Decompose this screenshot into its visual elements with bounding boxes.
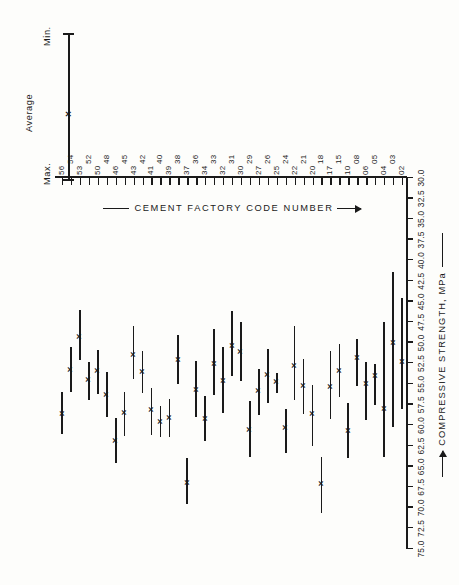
category-axis-title-text: CEMENT FACTORY CODE NUMBER [135, 203, 334, 213]
category-axis-tick-label: 20 [308, 166, 317, 175]
average-marker [390, 339, 397, 346]
average-marker [157, 418, 164, 425]
category-axis-tick-label: 45 [120, 155, 129, 164]
average-marker [184, 479, 191, 486]
average-marker [264, 371, 271, 378]
value-axis-tick [406, 342, 413, 343]
average-marker [229, 342, 236, 349]
average-marker [237, 348, 244, 355]
average-marker [318, 480, 325, 487]
value-axis-tick [406, 321, 413, 322]
category-axis-tick-label: 27 [254, 166, 263, 175]
range-bar [356, 339, 358, 386]
average-marker [381, 405, 388, 412]
category-axis-tick-label: 29 [245, 155, 254, 164]
average-marker [67, 366, 74, 373]
range-bar [401, 298, 403, 408]
category-axis-tick-label: 39 [164, 166, 173, 175]
average-marker [59, 410, 66, 417]
range-bar [365, 362, 367, 421]
average-marker [273, 378, 280, 385]
category-axis-tick-label: 42 [138, 155, 147, 164]
category-axis-tick-label: 50 [93, 166, 102, 175]
category-axis-tick-label: 17 [325, 166, 334, 175]
average-marker [94, 367, 101, 374]
average-marker [246, 426, 253, 433]
range-bar [383, 322, 385, 456]
average-marker [291, 362, 298, 369]
value-axis-rule [442, 233, 443, 267]
range-bar [392, 272, 394, 427]
average-marker [372, 372, 379, 379]
category-axis-tick-label: 48 [102, 155, 111, 164]
average-marker [399, 358, 406, 365]
average-marker [354, 354, 361, 361]
value-axis-tick [406, 445, 413, 446]
category-axis-tick-label: 56 [57, 166, 66, 175]
value-axis-tick [406, 300, 413, 301]
average-marker [300, 382, 307, 389]
category-axis-tick-label: 18 [316, 155, 325, 164]
value-axis-tick [406, 548, 413, 549]
category-axis-tick-label: 34 [200, 166, 209, 175]
average-marker [363, 380, 370, 387]
category-axis-tick-label: 08 [352, 155, 361, 164]
category-axis-tick-label: 02 [397, 166, 406, 175]
value-axis-tick [406, 424, 413, 425]
legend-max-label: Max. [42, 163, 52, 185]
average-marker [130, 351, 137, 358]
average-marker [336, 367, 343, 374]
average-marker [148, 406, 155, 413]
rotated-figure-group: × Max. Average Min. 75.072.570.067.565.0… [0, 0, 459, 585]
value-axis-tick [406, 383, 413, 384]
legend-average-marker: × [63, 111, 74, 117]
value-axis-tick [406, 486, 413, 487]
average-marker [211, 360, 218, 367]
category-axis-tick-label: 54 [66, 155, 75, 164]
category-axis-tick-label: 31 [227, 155, 236, 164]
category-axis-tick-label: 33 [209, 155, 218, 164]
average-marker [202, 415, 209, 422]
category-axis-tick-label: 52 [84, 155, 93, 164]
category-axis-tick-label: 37 [182, 166, 191, 175]
range-bar [374, 364, 376, 405]
average-marker [85, 377, 92, 384]
category-axis-tick-label: 15 [334, 155, 343, 164]
legend-min-label: Min. [42, 26, 52, 46]
category-axis-tick-label: 21 [299, 155, 308, 164]
value-axis-tick-label: 30.0 [416, 158, 426, 198]
category-axis-tick-label: 30 [236, 166, 245, 175]
average-marker [175, 356, 182, 363]
category-axis-tick-label: 04 [379, 166, 388, 175]
category-axis-tick-label: 10 [343, 166, 352, 175]
value-axis-tick [406, 197, 413, 198]
value-axis-tick [406, 238, 413, 239]
category-axis-tick-label: 24 [281, 155, 290, 164]
value-axis-tick [406, 177, 413, 178]
value-axis-tick [406, 403, 413, 404]
category-axis-rule [103, 208, 129, 209]
category-axis-tick-label: 32 [218, 166, 227, 175]
category-axis-tick-label: 25 [272, 166, 281, 175]
average-marker [255, 387, 262, 394]
value-axis-title: COMPRESSIVE STRENGTH, MPa [437, 195, 447, 515]
category-axis-tick-label: 40 [155, 155, 164, 164]
value-axis-tick [406, 506, 413, 507]
category-axis-tick-label: 05 [370, 155, 379, 164]
average-marker [327, 383, 334, 390]
average-marker [220, 377, 227, 384]
value-axis-arrow-icon [442, 451, 444, 477]
average-marker [112, 437, 119, 444]
average-marker [193, 386, 200, 393]
average-marker [103, 391, 110, 398]
category-axis-title: CEMENT FACTORY CODE NUMBER [55, 181, 407, 213]
average-marker [282, 424, 289, 431]
legend-average-label: Average [24, 94, 34, 132]
category-axis-tick-label: 43 [129, 166, 138, 175]
category-axis-tick-label: 38 [173, 155, 182, 164]
value-axis-tick [406, 218, 413, 219]
value-axis-title-text: COMPRESSIVE STRENGTH, MPa [437, 272, 447, 446]
legend-min-cap [63, 33, 74, 35]
category-axis-tick-label: 26 [263, 155, 272, 164]
category-axis-tick-label: 46 [111, 166, 120, 175]
